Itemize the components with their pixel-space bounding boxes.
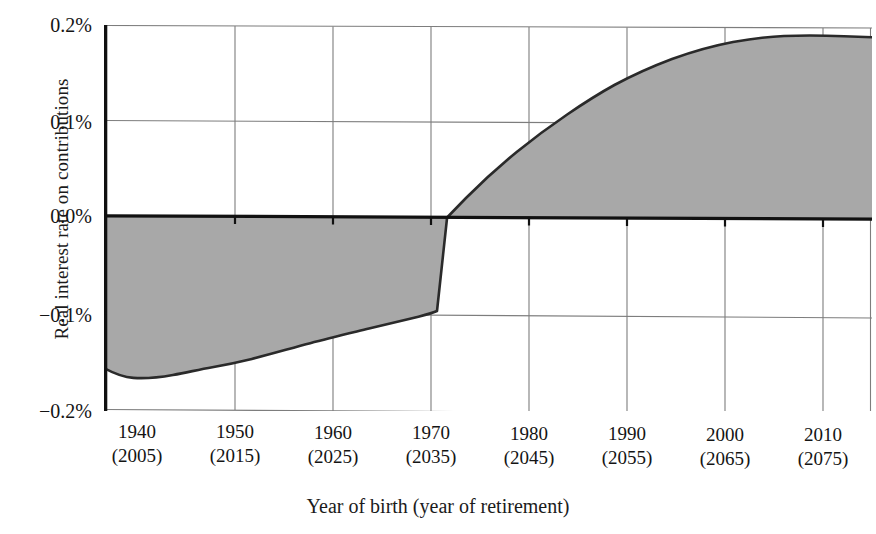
chart-svg <box>104 25 872 411</box>
y-tick-label-3: −0.1% <box>0 305 92 325</box>
y-tick-label-4: −0.2% <box>0 401 92 421</box>
x-tick-2010-birth: 2010 <box>763 423 876 447</box>
x-axis-title: Year of birth (year of retirement) <box>0 495 876 518</box>
plot-area <box>104 25 872 411</box>
chart-container: Real interest rate on contributions 0.2%… <box>0 0 876 534</box>
y-tick-label-0: 0.2% <box>0 15 92 35</box>
y-tick-label-2: 0.0% <box>0 206 92 226</box>
gridline-y-0.2 <box>104 26 872 29</box>
gridline-y--0.2 <box>104 410 872 412</box>
y-tick-label-1: 0.1% <box>0 112 92 132</box>
x-tick-2010-retire: (2075) <box>763 447 876 471</box>
x-tick-2010: 2010 (2075) <box>763 423 876 472</box>
